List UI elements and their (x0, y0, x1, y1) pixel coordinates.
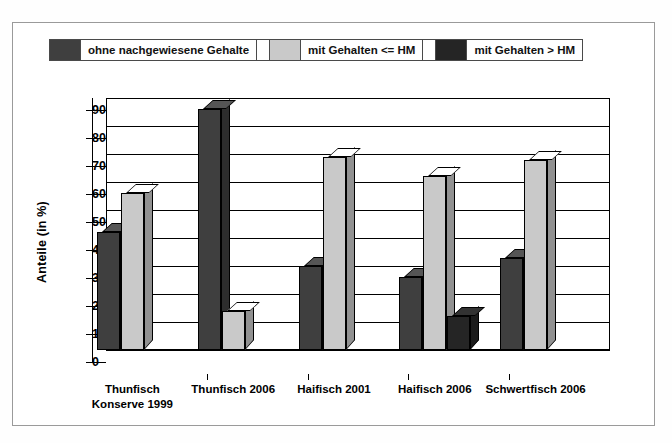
bar-front-face (323, 157, 346, 350)
legend-separator (257, 40, 270, 60)
x-tick-label: Schwertfisch 2006 (485, 382, 586, 397)
chart-legend: ohne nachgewiesene Gehaltemit Gehalten <… (49, 39, 583, 61)
y-tick-mark (86, 362, 93, 363)
x-tick-mark (408, 374, 409, 380)
bar (399, 277, 422, 350)
bar (299, 266, 322, 350)
bar (423, 176, 446, 350)
x-tick-mark (207, 374, 208, 380)
bar-front-face (97, 232, 120, 350)
bar (447, 316, 470, 350)
legend-swatch (270, 40, 301, 60)
legend-swatch (50, 40, 81, 60)
bar (500, 258, 523, 350)
chart-page: ohne nachgewiesene Gehaltemit Gehalten <… (0, 0, 672, 443)
legend-label: mit Gehalten > HM (467, 40, 582, 60)
bar-top-face (126, 184, 159, 193)
bar-side-face (144, 183, 153, 350)
bar-front-face (423, 176, 446, 350)
x-tick-mark (308, 374, 309, 380)
bar-top-face (428, 167, 461, 176)
bar-front-face (524, 160, 547, 350)
legend-label: mit Gehalten <= HM (301, 40, 423, 60)
bar-front-face (399, 277, 422, 350)
bar-front-face (447, 316, 470, 350)
bar-side-face (346, 147, 355, 350)
plot-area: 0102030405060708090 (92, 98, 610, 362)
legend-separator (423, 40, 436, 60)
bar (97, 232, 120, 350)
bar (121, 193, 144, 350)
bar (222, 311, 245, 350)
legend-item: mit Gehalten > HM (436, 40, 582, 60)
legend-item: mit Gehalten <= HM (270, 40, 423, 60)
x-tick-mark (509, 374, 510, 380)
bar-top-face (203, 100, 236, 109)
x-tick-label: Thunfisch 2006 (183, 382, 284, 397)
bar (524, 160, 547, 350)
bar-top-face (452, 307, 485, 316)
bar-front-face (121, 193, 144, 350)
bar-front-face (198, 109, 221, 350)
x-tick-label: Haifisch 2006 (384, 382, 485, 397)
chart-area: Anteile (in %) 0102030405060708090 Thunf… (18, 92, 638, 392)
y-axis-label: Anteile (in %) (35, 167, 49, 317)
legend-item: ohne nachgewiesene Gehalte (50, 40, 257, 60)
bar-front-face (500, 258, 523, 350)
legend-swatch (436, 40, 467, 60)
x-tick-label: Haifisch 2001 (284, 382, 385, 397)
bar-top-face (328, 148, 361, 157)
bar-series-group (92, 98, 610, 362)
bar-side-face (547, 150, 556, 350)
bar-front-face (299, 266, 322, 350)
x-tick-label: Thunfisch Konserve 1999 (82, 382, 183, 412)
x-axis-labels: Thunfisch Konserve 1999Thunfisch 2006Hai… (92, 374, 610, 430)
bar-top-face (529, 151, 562, 160)
bar-top-face (227, 302, 260, 311)
legend-label: ohne nachgewiesene Gehalte (81, 40, 257, 60)
bar-front-face (222, 311, 245, 350)
bar (323, 157, 346, 350)
bar (198, 109, 221, 350)
